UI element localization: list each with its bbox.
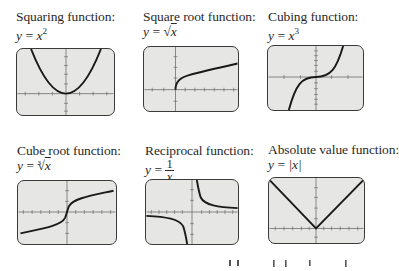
eq-var: x (171, 24, 177, 39)
reciprocal-graph (146, 180, 238, 244)
absolute-graph-panel (268, 177, 365, 244)
cutoff-text-fragment (215, 256, 385, 266)
eq-var: x (45, 158, 51, 173)
cubing-title: Cubing function: (268, 9, 358, 24)
squaring-graph-panel (16, 48, 115, 116)
radical-index: 3 (37, 156, 41, 171)
sqrt-graph (144, 47, 238, 111)
cbrt-graph (18, 181, 116, 244)
absolute-equation: y = |x| (268, 157, 302, 172)
sqrt-equation: y = √x (143, 24, 177, 39)
reciprocal-title: Reciprocal function: (145, 143, 254, 158)
squaring-graph (17, 49, 114, 115)
squaring-equation: y = x2 (16, 24, 47, 43)
reciprocal-graph-panel (145, 179, 239, 245)
sqrt-title: Square root function: (143, 9, 256, 24)
squaring-title: Squaring function: (16, 9, 115, 24)
eq-exponent: 2 (42, 26, 47, 36)
cubing-graph-panel (267, 45, 364, 111)
cbrt-graph-panel (17, 180, 117, 245)
reciprocal-curve-left (146, 216, 187, 244)
sqrt-graph-panel (143, 46, 239, 112)
absolute-title: Absolute value function: (268, 142, 399, 157)
cbrt-title: Cube root function: (17, 143, 121, 158)
absolute-graph (269, 178, 364, 243)
absolute-curve (269, 180, 363, 229)
cbrt-equation: y = 3√x (17, 158, 51, 173)
reciprocal-curve-right (197, 180, 238, 208)
cubing-graph (268, 46, 363, 110)
sqrt-curve (175, 63, 237, 89)
eq-exponent: 3 (294, 26, 299, 36)
eq-abs: |x| (288, 157, 301, 172)
cubing-equation: y = x3 (268, 24, 299, 43)
radical-sign: √ (163, 24, 170, 39)
